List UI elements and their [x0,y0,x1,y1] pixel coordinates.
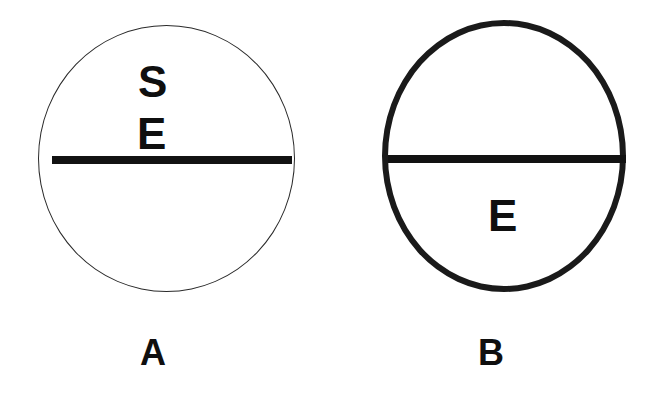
diameter-line-a [52,156,292,164]
region-label-s-a: S [138,60,167,104]
panel-a: S E A [0,0,340,405]
figure-root: S E A E B [0,0,662,405]
panel-b: E B [340,0,662,405]
region-label-e-b: E [488,194,517,238]
diameter-line-b [388,155,626,163]
panel-caption-a: A [140,335,166,371]
region-label-e-a: E [137,112,166,156]
panel-caption-b: B [478,335,504,371]
